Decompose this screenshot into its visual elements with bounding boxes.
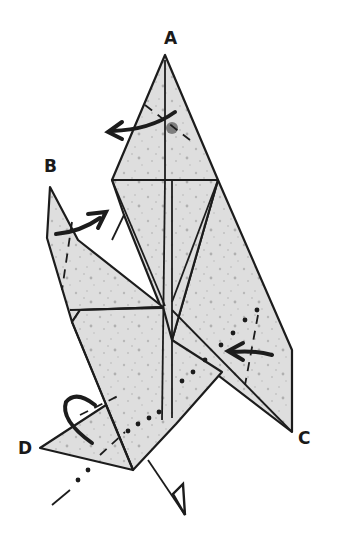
label-a: A xyxy=(164,30,177,47)
origami-diagram: A B C D xyxy=(0,0,337,550)
label-d: D xyxy=(18,440,32,457)
hollow-arrow-bottom xyxy=(148,460,185,515)
label-c: C xyxy=(298,430,310,447)
label-b: B xyxy=(44,158,57,175)
diagram-canvas xyxy=(0,0,337,550)
